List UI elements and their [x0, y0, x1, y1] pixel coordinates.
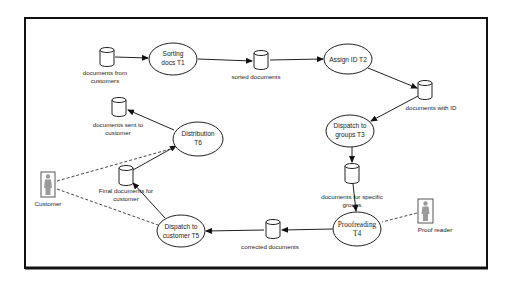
- database-icon: [254, 51, 268, 70]
- store-label: groups: [343, 201, 362, 208]
- process-label: customer T5: [163, 232, 200, 239]
- data-flow-diagram: Sorting docs T1 Assign ID T2 Dispatch to…: [0, 0, 511, 285]
- database-icon: [119, 166, 133, 186]
- database-icon: [100, 48, 114, 67]
- store-label: documents for specific: [321, 193, 383, 200]
- database-icon: [345, 164, 359, 184]
- database-icon: [266, 220, 280, 239]
- store-label: documents sent to: [93, 121, 144, 128]
- database-icon: [418, 81, 432, 100]
- process-dispatch-groups-t3[interactable]: Dispatch to groups T3: [326, 115, 374, 147]
- actor-label: Customer: [35, 200, 62, 207]
- store-label: documents with ID: [406, 104, 457, 111]
- database-icon: [112, 98, 126, 117]
- store-label: corrected documents: [241, 243, 299, 250]
- store-label: customers: [91, 77, 120, 84]
- store-label: sorted documents: [231, 73, 280, 80]
- process-label: T6: [194, 139, 202, 146]
- process-distribution-t6[interactable]: Distribution T6: [173, 122, 223, 156]
- process-label: T4: [353, 229, 362, 238]
- process-sorting-t1[interactable]: Sorting docs T1: [149, 43, 197, 75]
- store-label: documents from: [83, 69, 127, 76]
- process-label: Proofreading: [338, 220, 377, 229]
- process-label: Dispatch to: [165, 223, 198, 231]
- person-icon: [418, 199, 433, 223]
- store-label: customer: [113, 195, 138, 202]
- process-proofreading-t4[interactable]: Proofreading T4: [333, 212, 381, 246]
- process-label: docs T1: [161, 59, 185, 66]
- store-label: Final documents for: [99, 187, 153, 194]
- person-icon: [41, 172, 55, 197]
- process-label: groups T3: [335, 131, 365, 139]
- actor-label: Proof reader: [418, 226, 452, 233]
- process-label: Sorting: [163, 50, 184, 58]
- process-assign-id-t2[interactable]: Assign ID T2: [324, 44, 372, 74]
- process-dispatch-customer-t5[interactable]: Dispatch to customer T5: [157, 215, 205, 247]
- process-label: Assign ID T2: [329, 56, 367, 64]
- process-label: Distribution: [182, 130, 215, 137]
- process-label: Dispatch to: [334, 122, 367, 130]
- store-label: customer: [105, 129, 130, 136]
